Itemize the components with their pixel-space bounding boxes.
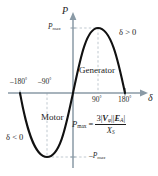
- xtick-pos180-degree: °: [129, 95, 131, 101]
- xtick-neg90-value: –90: [38, 77, 49, 86]
- formula-lhs: Pmax: [72, 119, 87, 129]
- formula-denominator: XS: [106, 125, 116, 136]
- xtick-neg180-degree: °: [25, 77, 27, 83]
- ytick-pmax-sub: max: [53, 26, 61, 31]
- ytick-negpmax-sub: max: [97, 155, 105, 160]
- xtick-neg180-value: –180: [10, 77, 25, 86]
- y-axis-label: P: [62, 6, 68, 16]
- formula-equals: =: [89, 119, 94, 129]
- ytick-label-neg-pmax: –Pmax: [89, 152, 105, 161]
- motor-region-label: Motor: [41, 113, 64, 122]
- x-axis-label: δ: [148, 93, 153, 103]
- formula-denominator-sub: S: [112, 129, 115, 135]
- xtick-pos90-value: 90: [92, 95, 100, 104]
- generator-region-label: Generator: [79, 66, 115, 75]
- xtick-pos90-degree: °: [100, 95, 102, 101]
- power-angle-curve-figure: P δ Pmax –Pmax –180° –90° 90° 180° Gener…: [0, 0, 158, 176]
- xtick-label-neg90: –90°: [38, 78, 51, 86]
- formula-lhs-sub: max: [77, 123, 86, 129]
- delta-negative-annotation: δ < 0: [6, 133, 23, 142]
- xtick-neg90-degree: °: [49, 77, 51, 83]
- xtick-pos180-value: 180: [118, 95, 129, 104]
- formula-fraction: 3|Vφ||EA| XS: [95, 113, 126, 135]
- pmax-formula: Pmax = 3|Vφ||EA| XS: [72, 113, 126, 135]
- xtick-label-neg180: –180°: [10, 78, 27, 86]
- ytick-label-pmax: Pmax: [48, 23, 61, 32]
- xtick-label-pos180: 180°: [118, 96, 131, 104]
- formula-e-bar-close: |: [123, 113, 125, 123]
- xtick-label-pos90: 90°: [92, 96, 102, 104]
- delta-positive-annotation: δ > 0: [119, 28, 136, 37]
- formula-numerator: 3|Vφ||EA|: [95, 113, 126, 124]
